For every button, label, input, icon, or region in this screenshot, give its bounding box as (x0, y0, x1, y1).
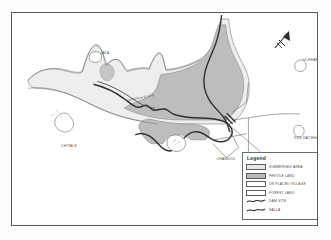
map-label-uchhand: UCHHAND (303, 58, 318, 62)
legend-label-nalla: NALLA (269, 208, 280, 212)
legend-title: Legend (247, 155, 314, 161)
legend-label-forest-land: FOREST LAND (269, 191, 294, 195)
legend-label-dam-site: DAM SITE (269, 199, 286, 203)
map-label-chandod: CHANDOD (217, 157, 236, 161)
legend-label-displaced-village: DR PLACED VILLAGE (269, 182, 306, 186)
legend-symbol-dam-site (246, 198, 266, 204)
north-arrow-icon (270, 27, 296, 53)
map-label-jala: JALA (100, 51, 109, 55)
map-frame: JALA UCHHAND CHITALE KUD KACHHAND CHANDO… (11, 12, 318, 226)
legend-item-nalla: NALLA (246, 206, 314, 214)
map-label-chitale: CHITALE (61, 144, 77, 148)
legend-swatch-displaced-village (246, 181, 266, 187)
legend-item-submerged-area: SUBMERGED AREA (246, 163, 314, 171)
legend-swatch-submerged-area (246, 164, 266, 170)
village-chandod (167, 135, 186, 151)
map-label-kud-kachhand: KUD KACHHAND (294, 136, 318, 140)
legend-box: Legend SUBMERGED AREA FERTILE LAND DR PL… (242, 152, 318, 220)
map-page: JALA UCHHAND CHITALE KUD KACHHAND CHANDO… (0, 0, 331, 240)
legend-item-displaced-village: DR PLACED VILLAGE (246, 180, 314, 188)
legend-item-dam-site: DAM SITE (246, 197, 314, 205)
legend-label-fertile-land: FERTILE LAND (269, 174, 295, 178)
legend-swatch-fertile-land (246, 173, 266, 179)
legend-label-submerged-area: SUBMERGED AREA (269, 165, 303, 169)
legend-symbol-nalla (246, 207, 266, 213)
legend-swatch-forest-land (246, 190, 266, 196)
legend-item-forest-land: FOREST LAND (246, 189, 314, 197)
village-chitale (55, 113, 74, 132)
legend-item-fertile-land: FERTILE LAND (246, 172, 314, 180)
